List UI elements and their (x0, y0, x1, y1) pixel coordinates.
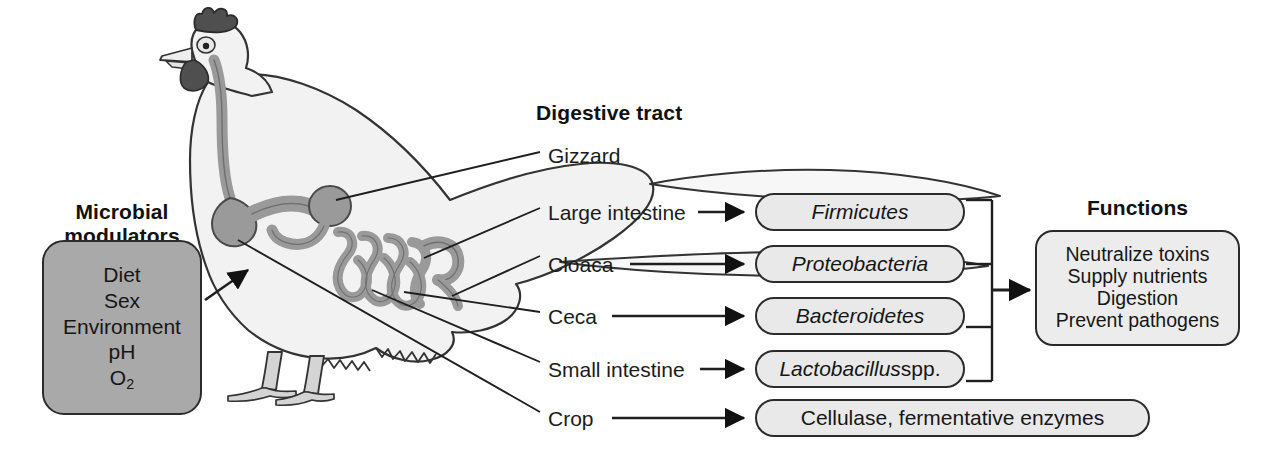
microbial-modulators-box[interactable]: Diet Sex Environment pH O2 (42, 240, 202, 415)
modulator-item-oxygen: O2 (110, 365, 134, 393)
organ-label-ceca[interactable]: Ceca (548, 306, 597, 327)
organ-label-cloaca[interactable]: Cloaca (548, 254, 613, 275)
enzymes-pill[interactable]: Cellulase, fermentative enzymes (755, 399, 1150, 437)
function-item-digestion: Digestion (1097, 288, 1178, 310)
taxon-pill-firmicutes[interactable]: Firmicutes (755, 193, 965, 231)
modulators-title-line1: Microbial (42, 200, 202, 224)
oxygen-subscript: 2 (126, 375, 134, 391)
functions-box[interactable]: Neutralize toxins Supply nutrients Diges… (1035, 230, 1240, 346)
taxon-name: Lactobacillus (779, 357, 900, 381)
taxon-pill-proteobacteria[interactable]: Proteobacteria (755, 245, 965, 283)
taxa-bracket (966, 200, 1030, 381)
taxon-suffix: spp. (901, 357, 941, 381)
leader-lines (238, 152, 540, 412)
modulators-arrow (205, 270, 248, 300)
functions-title: Functions (1035, 196, 1240, 220)
modulator-item-environment: Environment (63, 314, 181, 340)
digestive-tract-title: Digestive tract (536, 101, 682, 125)
organ-label-gizzard[interactable]: Gizzard (548, 145, 620, 166)
taxon-name: Firmicutes (812, 200, 909, 224)
label-to-pill-arrows (612, 212, 744, 418)
organ-label-crop[interactable]: Crop (548, 408, 594, 429)
modulator-item-sex: Sex (104, 288, 140, 314)
modulator-item-ph: pH (109, 339, 136, 365)
organ-label-small-intestine[interactable]: Small intestine (548, 359, 685, 380)
organ-label-large-intestine[interactable]: Large intestine (548, 202, 686, 223)
taxon-pill-lactobacillus[interactable]: Lactobacillus spp. (755, 350, 965, 388)
modulator-item-diet: Diet (103, 262, 140, 288)
taxon-name: Bacteroidetes (796, 304, 924, 328)
taxon-name: Proteobacteria (792, 252, 929, 276)
diagram-canvas: Microbial modulators Diet Sex Environmen… (0, 0, 1271, 466)
taxon-pill-bacteroidetes[interactable]: Bacteroidetes (755, 297, 965, 335)
function-item-supply-nutrients: Supply nutrients (1068, 266, 1208, 288)
oxygen-symbol: O (110, 366, 126, 389)
enzymes-label: Cellulase, fermentative enzymes (801, 406, 1104, 430)
function-item-prevent-pathogens: Prevent pathogens (1056, 310, 1220, 332)
function-item-neutralize-toxins: Neutralize toxins (1065, 244, 1209, 266)
